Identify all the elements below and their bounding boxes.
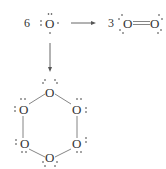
product-o2-coefficient: 3 — [108, 16, 114, 30]
ring-atom-lower-right: O — [72, 136, 81, 151]
o6-ring: O O O O O O — [14, 79, 87, 167]
arrow-right — [71, 21, 96, 25]
product-o2-atom-right: O — [150, 16, 159, 31]
ring-atom-upper-left: O — [19, 102, 28, 117]
arrow-down — [48, 43, 52, 72]
oxygen-reaction-diagram: 6 O 3 O O — [0, 0, 166, 169]
product-o2-atom-left: O — [123, 16, 132, 31]
ring-atom-upper-right: O — [72, 102, 81, 117]
ring-atom-bottom: O — [45, 150, 54, 165]
ring-atom-lower-left: O — [20, 136, 29, 151]
product-o2: 3 O O — [108, 14, 163, 34]
reactant-coefficient: 6 — [24, 16, 30, 30]
reactant: 6 O — [24, 13, 59, 34]
ring-atom-top: O — [45, 85, 54, 100]
reactant-atom: O — [45, 16, 54, 31]
